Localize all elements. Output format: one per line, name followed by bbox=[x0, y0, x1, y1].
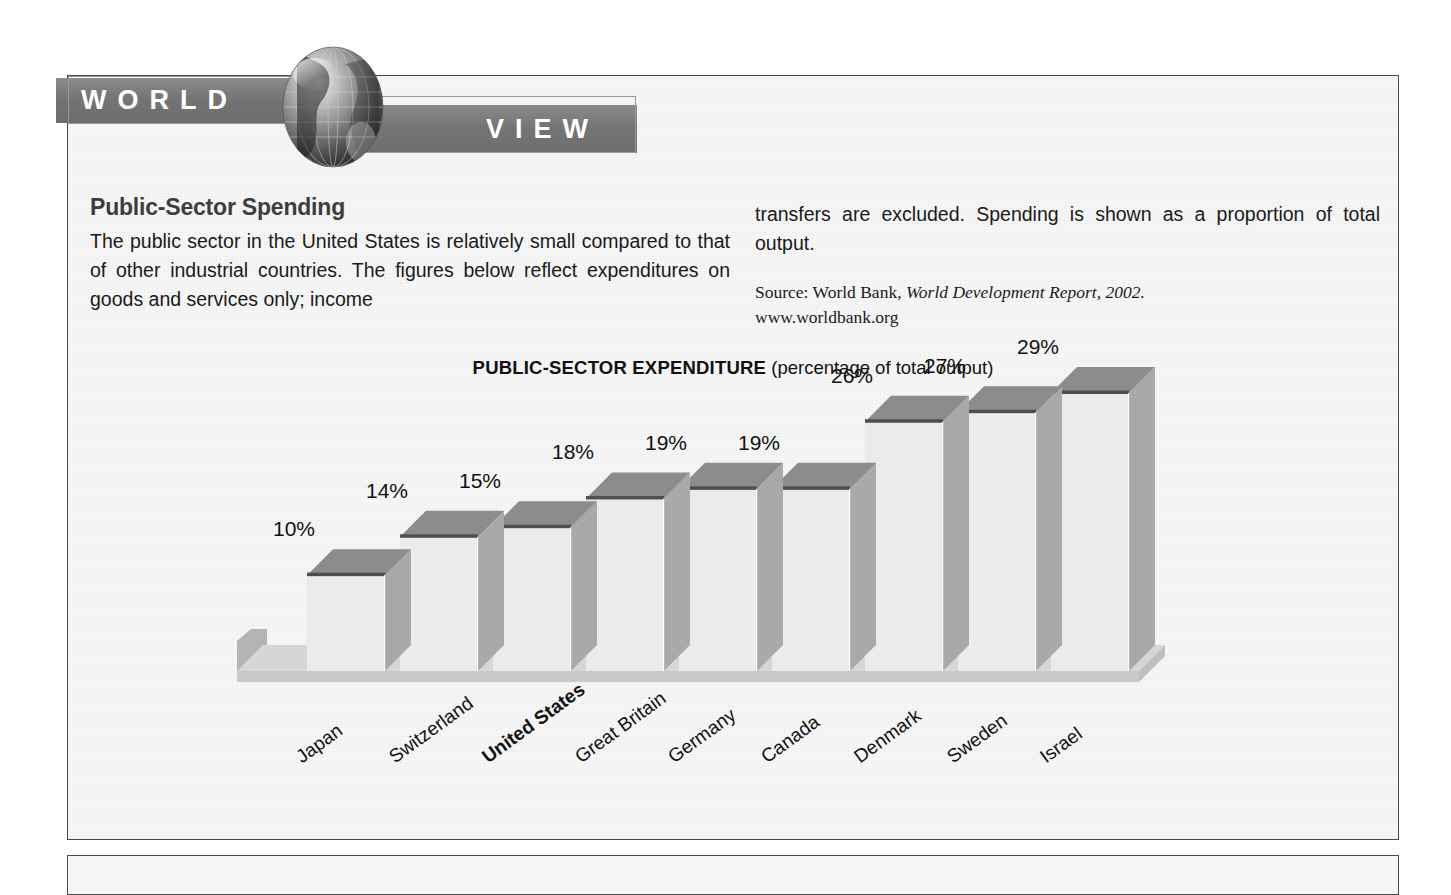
next-panel-sliver bbox=[67, 855, 1399, 895]
world-view-panel bbox=[67, 75, 1399, 840]
article-paragraph-left: The public sector in the United States i… bbox=[90, 227, 730, 314]
source-prefix: Source: World Bank, bbox=[755, 282, 906, 302]
article-paragraph-right: transfers are excluded. Spending is show… bbox=[755, 200, 1380, 258]
page-title: Public-Sector Spending bbox=[90, 194, 730, 221]
source-url[interactable]: www.worldbank.org bbox=[755, 307, 898, 327]
source-citation: Source: World Bank, World Development Re… bbox=[755, 280, 1380, 330]
source-publication-title: World Development Report, 2002. bbox=[906, 282, 1145, 302]
article-right-column: transfers are excluded. Spending is show… bbox=[755, 200, 1380, 330]
article-left-column: Public-Sector Spending The public sector… bbox=[90, 194, 730, 314]
